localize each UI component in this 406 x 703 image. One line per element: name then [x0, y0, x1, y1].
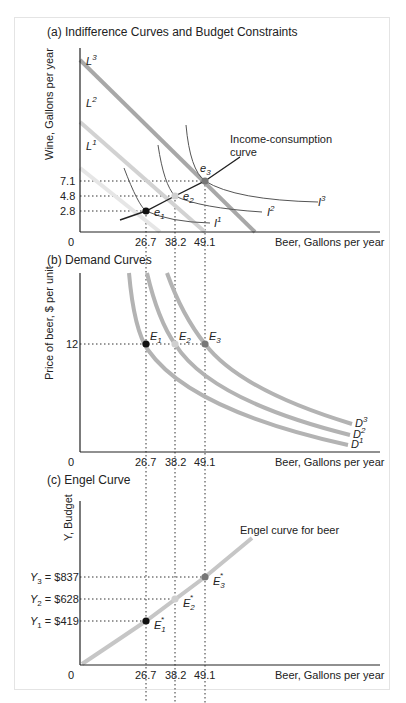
xtick-49.1: 49.1: [194, 236, 215, 248]
panel-a: (a) Indifference Curves and Budget Const…: [43, 25, 385, 703]
panel-b-xlabel: Beer, Gallons per year: [275, 456, 385, 468]
label-I3: I3: [318, 194, 326, 208]
panel-c-xlabel: Beer, Gallons per year: [275, 669, 385, 681]
engel-curve: [82, 538, 252, 664]
ytick-Y1: Y1 = $419: [30, 615, 79, 630]
label-E1: E1: [150, 330, 162, 345]
icc-label-line2: curve: [230, 146, 257, 158]
panel-c-ylabel: Y, Budget: [62, 494, 74, 541]
label-e1: e1: [154, 206, 165, 221]
panel-b: (b) Demand Curves Price of beer, $ per u…: [43, 253, 385, 468]
xtick-38.2: 38.2: [165, 236, 186, 248]
ytick-4.8: 4.8: [60, 190, 75, 202]
point-E2-star: [171, 595, 178, 602]
point-E1: [142, 340, 149, 347]
panel-c-title: (c) Engel Curve: [47, 473, 131, 487]
point-E3: [201, 340, 208, 347]
panel-a-ylabel: Wine, Gallons per year: [43, 48, 55, 160]
point-E2: [171, 340, 178, 347]
label-E3: E3: [209, 330, 221, 345]
point-e2: [171, 192, 178, 199]
xtick-26.7: 26.7: [135, 236, 156, 248]
engel-figure: (a) Indifference Curves and Budget Const…: [0, 0, 406, 703]
icc-label-line1: Income-consumption: [230, 133, 332, 145]
label-I1: I1: [214, 215, 222, 229]
ytick-12: 12: [66, 338, 78, 350]
xtick-26.7: 26.7: [135, 669, 156, 681]
label-e2: e2: [183, 190, 194, 205]
label-L2: L2: [86, 95, 97, 109]
xtick-38.2: 38.2: [165, 456, 186, 468]
point-e3: [201, 177, 208, 184]
ytick-2.8: 2.8: [60, 205, 75, 217]
xtick-49.1: 49.1: [194, 669, 215, 681]
point-e1: [142, 207, 149, 214]
label-I2: I2: [267, 204, 275, 218]
ytick-Y3: Y3 = $837: [30, 571, 79, 586]
xtick-49.1: 49.1: [194, 456, 215, 468]
label-E2: E2: [179, 330, 191, 345]
label-L1: L1: [86, 138, 97, 152]
panel-a-xlabel: Beer, Gallons per year: [275, 236, 385, 248]
panel-c: (c) Engel Curve Y, Budget Y3 = $837 Y2 =…: [30, 473, 385, 681]
demand-curve-D3: [167, 273, 352, 424]
label-D1: D1: [351, 436, 363, 450]
label-e3: e3: [200, 162, 211, 177]
budget-line-L1: [80, 168, 160, 232]
origin-label: 0: [68, 669, 74, 681]
panel-b-ylabel: Price of beer, $ per unit: [43, 266, 55, 380]
origin-label: 0: [68, 236, 74, 248]
ytick-Y2: Y2 = $628: [30, 593, 79, 608]
ytick-7.1: 7.1: [60, 175, 75, 187]
demand-curve-D1: [129, 273, 348, 445]
engel-curve-label: Engel curve for beer: [240, 524, 339, 536]
xtick-38.2: 38.2: [165, 669, 186, 681]
point-E1-star: [142, 617, 149, 624]
panel-b-title: (b) Demand Curves: [47, 253, 152, 267]
point-E3-star: [201, 573, 208, 580]
origin-label: 0: [68, 456, 74, 468]
label-E3-star: E3*: [213, 571, 225, 590]
xtick-26.7: 26.7: [135, 456, 156, 468]
panel-a-title: (a) Indifference Curves and Budget Const…: [47, 25, 298, 39]
label-L3: L3: [86, 53, 97, 67]
label-E2-star: E2*: [183, 593, 195, 612]
label-E1-star: E1*: [154, 615, 166, 634]
